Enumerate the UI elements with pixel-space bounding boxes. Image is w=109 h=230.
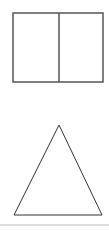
diagram-canvas xyxy=(0,0,109,230)
triangle xyxy=(14,125,102,215)
split-rectangle xyxy=(13,13,103,82)
